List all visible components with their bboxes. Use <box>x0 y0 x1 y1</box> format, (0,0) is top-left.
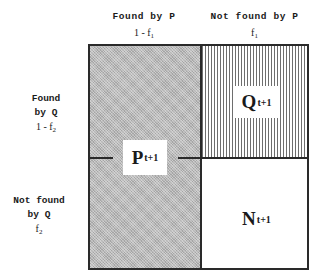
horizontal-divider-left <box>90 157 113 159</box>
partition-diagram: Pt+1 Qt+1 Nt+1 <box>88 44 309 270</box>
label-subscript: t+1 <box>144 152 158 163</box>
label-q-t-plus-1: Qt+1 <box>235 86 278 118</box>
label-n-t-plus-1: Nt+1 <box>235 204 278 234</box>
column-value-subscript: 1 <box>151 32 155 40</box>
row-value-prefix: 1 - f <box>36 121 53 132</box>
label-letter: P <box>132 147 144 169</box>
row-value: 1 - f2 <box>6 120 86 137</box>
row-value-subscript: 2 <box>53 126 57 134</box>
row-heading-line2: by Q <box>0 208 79 222</box>
column-heading-found-by-p: Found by P <box>88 11 200 22</box>
label-letter: N <box>242 208 256 230</box>
column-value-not-found-by-p: f1 <box>200 27 309 40</box>
column-value-found-by-p: 1 - f1 <box>88 27 200 40</box>
label-subscript: t+1 <box>257 214 271 225</box>
label-p-t-plus-1: Pt+1 <box>123 140 167 175</box>
row-heading-line1: Found <box>6 92 86 106</box>
row-heading-found-by-q: Found by Q 1 - f2 <box>6 92 86 137</box>
label-subscript: t+1 <box>257 97 271 108</box>
row-value-subscript: 2 <box>39 228 43 236</box>
row-value: f2 <box>0 222 79 239</box>
label-letter: Q <box>242 91 257 113</box>
column-value-prefix: 1 - f <box>134 27 151 38</box>
column-heading-not-found-by-p: Not found by P <box>200 11 309 22</box>
horizontal-divider-right <box>178 157 307 159</box>
row-heading-line2: by Q <box>6 106 86 120</box>
row-heading-not-found-by-q: Not found by Q f2 <box>0 194 79 239</box>
row-heading-line1: Not found <box>0 194 79 208</box>
column-value-subscript: 1 <box>254 32 258 40</box>
